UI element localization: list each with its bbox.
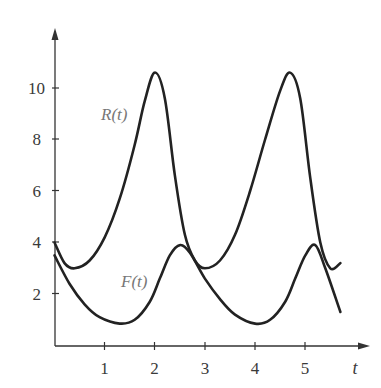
x-axis-title: t	[352, 358, 358, 378]
x-tick-label: 4	[251, 359, 260, 378]
y-tick-label: 8	[33, 130, 42, 149]
x-tick-labels: 1 2 3 4 5	[100, 359, 309, 378]
x-axis-arrow-icon	[358, 343, 370, 350]
x-tick-label: 3	[201, 359, 210, 378]
x-tick-label: 1	[100, 359, 109, 378]
y-tick-label: 4	[33, 233, 42, 252]
y-tick-label: 10	[28, 79, 45, 98]
y-tick-label: 2	[33, 285, 42, 304]
x-tick-label: 5	[301, 359, 310, 378]
series-f-label: F(t)	[120, 272, 148, 291]
y-tick-labels: 2 4 6 8 10	[28, 79, 45, 304]
series-r-label: R(t)	[100, 105, 128, 124]
y-axis-arrow-icon	[52, 28, 59, 40]
x-tick-label: 2	[150, 359, 159, 378]
series-f-line	[55, 245, 341, 324]
axes	[55, 36, 362, 346]
series-r-line	[55, 72, 341, 269]
line-chart: 2 4 6 8 10 1 2 3 4 5 t R(t) F(t)	[0, 0, 381, 388]
y-tick-label: 6	[33, 182, 42, 201]
